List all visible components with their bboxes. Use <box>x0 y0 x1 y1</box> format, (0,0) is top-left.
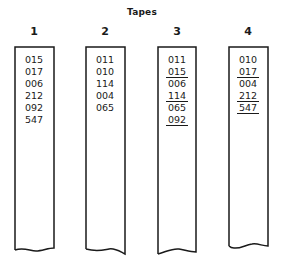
tape-4-label: 4 <box>228 25 268 38</box>
tape-2-entries: 011 010 114 004 065 <box>85 54 125 114</box>
tape-entry: 212 <box>23 90 45 102</box>
tape-entry-underlined: 114 <box>166 90 188 102</box>
tape-entry: 017 <box>23 66 45 78</box>
tape-entry: 547 <box>23 114 45 126</box>
tape-1: 015 017 006 212 092 547 <box>14 46 54 256</box>
tape-3: 011 015 006 114 065 092 <box>157 46 197 256</box>
tape-entry: 114 <box>94 78 116 90</box>
tape-3-entries: 011 015 006 114 065 092 <box>157 54 197 126</box>
tape-1-label: 1 <box>14 25 54 38</box>
tape-entry: 006 <box>166 78 188 90</box>
tape-entry: 006 <box>23 78 45 90</box>
tape-entry: 092 <box>23 102 45 114</box>
tape-1-entries: 015 017 006 212 092 547 <box>14 54 54 126</box>
tape-entry: 011 <box>166 54 188 66</box>
tape-entry-underlined: 017 <box>237 66 259 78</box>
tape-entry: 011 <box>94 54 116 66</box>
tape-entry: 004 <box>237 78 259 90</box>
tape-entry: 010 <box>94 66 116 78</box>
tape-2-label: 2 <box>85 25 125 38</box>
tape-entry: 010 <box>237 54 259 66</box>
tape-entry: 015 <box>23 54 45 66</box>
tape-entry-underlined: 547 <box>237 102 259 114</box>
tape-4-entries: 010 017 004 212 547 <box>228 54 268 114</box>
tape-entry-underlined: 092 <box>166 114 188 126</box>
tape-3-label: 3 <box>157 25 197 38</box>
tape-entry: 065 <box>94 102 116 114</box>
tape-4: 010 017 004 212 547 <box>228 46 268 256</box>
tape-2: 011 010 114 004 065 <box>85 46 125 256</box>
diagram-title: Tapes <box>0 7 284 17</box>
tape-entry: 004 <box>94 90 116 102</box>
tape-entry-underlined: 212 <box>237 90 259 102</box>
tape-entry-underlined: 015 <box>166 66 188 78</box>
tape-entry: 065 <box>166 102 188 114</box>
